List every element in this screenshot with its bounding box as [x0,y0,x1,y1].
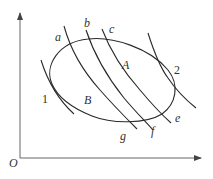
label-region-B: B [84,93,92,107]
label-g: g [120,129,126,143]
curve-c-e [102,29,171,123]
label-region-A: A [121,58,130,72]
label-a: a [55,30,61,44]
origin-label: O [9,156,18,170]
label-f: f [151,124,156,138]
label-b: b [84,16,90,30]
label-c: c [109,22,115,36]
curve-b-f [86,30,153,130]
cycle-diagram: O a b c 1 2 A B e f g [0,0,213,179]
label-point-1: 1 [42,92,48,106]
curve-tangent-2 [148,33,196,108]
label-point-2: 2 [174,63,180,77]
label-e: e [175,111,181,125]
